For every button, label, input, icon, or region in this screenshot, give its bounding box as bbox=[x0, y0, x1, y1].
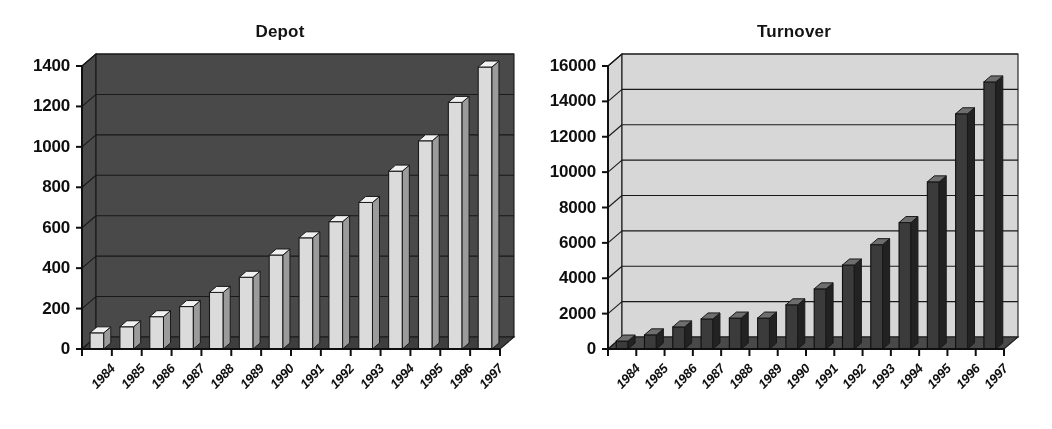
y-tick-label: 2000 bbox=[526, 304, 596, 324]
y-tick-label: 16000 bbox=[526, 56, 596, 76]
bar-1992 bbox=[329, 216, 350, 349]
bar-1989 bbox=[758, 312, 777, 349]
bar-1991 bbox=[299, 232, 320, 349]
y-tick-label: 8000 bbox=[526, 198, 596, 218]
y-tick-label: 6000 bbox=[526, 233, 596, 253]
y-tick-label: 400 bbox=[0, 258, 70, 278]
bar-1990 bbox=[269, 249, 290, 349]
bar-1996 bbox=[448, 96, 469, 349]
bar-1995 bbox=[927, 176, 946, 349]
y-tick-label: 1200 bbox=[0, 96, 70, 116]
bar-1988 bbox=[209, 286, 230, 349]
y-tick-label: 600 bbox=[0, 218, 70, 238]
plot-area-depot bbox=[0, 0, 526, 429]
bar-1997 bbox=[984, 76, 1003, 349]
bar-1986 bbox=[673, 321, 692, 349]
y-tick-label: 0 bbox=[0, 339, 70, 359]
bar-1994 bbox=[899, 217, 918, 349]
bar-1997 bbox=[478, 61, 499, 349]
y-tick-label: 800 bbox=[0, 177, 70, 197]
bar-1996 bbox=[956, 108, 975, 349]
bar-1994 bbox=[389, 165, 410, 349]
y-tick-label: 14000 bbox=[526, 91, 596, 111]
y-tick-label: 1000 bbox=[0, 137, 70, 157]
bar-1986 bbox=[150, 311, 171, 349]
plot-side-wall bbox=[82, 54, 96, 349]
bar-1984 bbox=[90, 327, 111, 349]
bar-1985 bbox=[120, 321, 141, 349]
y-tick-label: 1400 bbox=[0, 56, 70, 76]
figure-root: Depot 0200400600800100012001400 19841985… bbox=[0, 0, 1052, 429]
chart-panel-depot: Depot 0200400600800100012001400 19841985… bbox=[0, 0, 526, 429]
y-tick-label: 0 bbox=[526, 339, 596, 359]
bar-1985 bbox=[644, 329, 663, 349]
y-tick-label: 10000 bbox=[526, 162, 596, 182]
y-tick-label: 4000 bbox=[526, 268, 596, 288]
bar-1987 bbox=[180, 301, 201, 349]
bar-1990 bbox=[786, 299, 805, 349]
bar-1992 bbox=[842, 259, 861, 349]
bar-1993 bbox=[871, 239, 890, 349]
chart-panel-turnover: Turnover 0200040006000800010000120001400… bbox=[526, 0, 1052, 429]
y-tick-label: 200 bbox=[0, 299, 70, 319]
bar-1995 bbox=[418, 135, 439, 349]
y-tick-label: 12000 bbox=[526, 127, 596, 147]
chart-svg-depot bbox=[0, 0, 526, 429]
bar-1988 bbox=[729, 312, 748, 349]
bar-1987 bbox=[701, 313, 720, 349]
bar-1989 bbox=[239, 271, 260, 349]
bar-1993 bbox=[359, 196, 380, 349]
bar-1991 bbox=[814, 283, 833, 349]
